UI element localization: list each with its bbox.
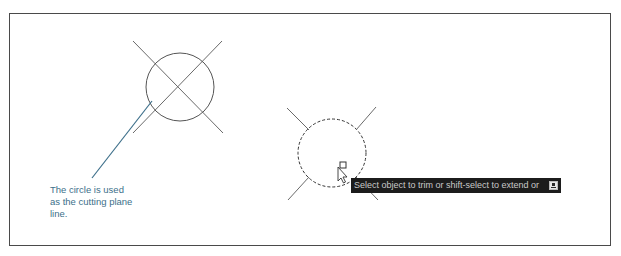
caption-line: The circle is used — [50, 184, 180, 196]
caption-line: line. — [50, 208, 180, 220]
command-tooltip: Select object to trim or shift-select to… — [351, 178, 561, 193]
trimmed-line-upper-right — [356, 107, 376, 130]
left-drawing — [133, 41, 223, 133]
arrow-cursor-icon — [338, 167, 347, 183]
cursor — [338, 162, 347, 183]
caption-text: The circle is used as the cutting plane … — [50, 184, 180, 220]
trimmed-line-lower-left — [288, 177, 309, 200]
pickbox-icon — [340, 162, 346, 168]
dynamic-input-icon[interactable] — [549, 181, 558, 190]
caption-line: as the cutting plane — [50, 196, 180, 208]
tooltip-text: Select object to trim or shift-select to… — [354, 178, 539, 193]
leader-line — [92, 101, 152, 178]
trimmed-line-upper-left — [287, 108, 309, 130]
cutting-circle — [146, 53, 214, 121]
